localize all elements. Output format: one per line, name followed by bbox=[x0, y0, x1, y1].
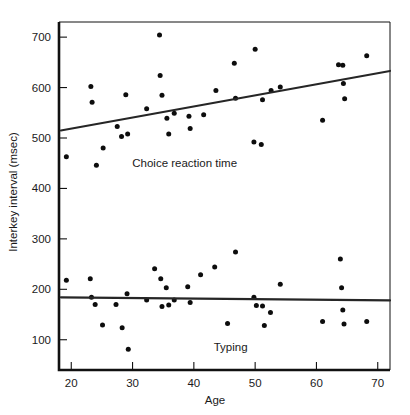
data-point bbox=[336, 62, 341, 67]
trend-line bbox=[61, 297, 390, 300]
data-point bbox=[126, 347, 131, 352]
data-point bbox=[120, 325, 125, 330]
data-point bbox=[253, 47, 258, 52]
data-point bbox=[166, 302, 171, 307]
data-point bbox=[341, 81, 346, 86]
data-point bbox=[213, 88, 218, 93]
data-point bbox=[320, 319, 325, 324]
data-point bbox=[88, 276, 93, 281]
x-tick-label: 30 bbox=[126, 377, 139, 389]
y-axis-title: Interkey interval (msec) bbox=[7, 132, 19, 252]
data-point bbox=[342, 96, 347, 101]
data-point bbox=[152, 266, 157, 271]
data-point bbox=[364, 319, 369, 324]
data-point bbox=[100, 323, 105, 328]
data-point bbox=[144, 106, 149, 111]
scatter-plot-figure: 100200300400500600700203040506070 Age In… bbox=[0, 0, 410, 415]
data-point bbox=[64, 154, 69, 159]
data-point bbox=[340, 307, 345, 312]
y-tick-label: 300 bbox=[32, 233, 51, 245]
data-point bbox=[198, 272, 203, 277]
data-point bbox=[340, 63, 345, 68]
data-point bbox=[186, 114, 191, 119]
y-tick-label: 200 bbox=[32, 283, 51, 295]
data-point bbox=[64, 278, 69, 283]
data-point bbox=[115, 124, 120, 129]
data-point bbox=[185, 284, 190, 289]
series-annotation-label: Choice reaction time bbox=[132, 157, 237, 169]
data-point bbox=[342, 322, 347, 327]
data-point bbox=[158, 276, 163, 281]
axis-frame bbox=[59, 22, 390, 370]
data-point bbox=[123, 92, 128, 97]
data-point bbox=[159, 304, 164, 309]
data-point bbox=[320, 118, 325, 123]
x-tick-label: 40 bbox=[187, 377, 200, 389]
data-point bbox=[125, 291, 130, 296]
data-point bbox=[119, 134, 124, 139]
axis-tick-labels-layer: 100200300400500600700203040506070 bbox=[32, 31, 384, 389]
data-point bbox=[278, 282, 283, 287]
data-point bbox=[166, 131, 171, 136]
tick-marks-layer bbox=[59, 37, 378, 370]
data-point bbox=[101, 146, 106, 151]
plot-canvas: 100200300400500600700203040506070 Age In… bbox=[0, 0, 410, 415]
data-point bbox=[94, 163, 99, 168]
y-tick-label: 700 bbox=[32, 31, 51, 43]
y-tick-label: 500 bbox=[32, 132, 51, 144]
data-point bbox=[88, 84, 93, 89]
x-tick-label: 70 bbox=[371, 377, 384, 389]
data-point bbox=[339, 285, 344, 290]
data-point bbox=[262, 323, 267, 328]
series-annotations-layer: Choice reaction timeTyping bbox=[132, 157, 247, 353]
axis-lines-layer bbox=[59, 22, 390, 370]
y-tick-label: 100 bbox=[32, 334, 51, 346]
data-point bbox=[251, 140, 256, 145]
data-point bbox=[260, 303, 265, 308]
data-point bbox=[172, 111, 177, 116]
y-tick-label: 400 bbox=[32, 182, 51, 194]
data-point bbox=[201, 112, 206, 117]
data-point bbox=[254, 303, 259, 308]
trend-lines-layer bbox=[61, 71, 390, 300]
data-point bbox=[158, 73, 163, 78]
data-point bbox=[260, 97, 265, 102]
y-tick-label: 600 bbox=[32, 82, 51, 94]
data-point bbox=[259, 142, 264, 147]
data-point bbox=[164, 116, 169, 121]
data-point bbox=[232, 61, 237, 66]
data-point bbox=[159, 93, 164, 98]
x-tick-label: 50 bbox=[249, 377, 262, 389]
data-point bbox=[225, 321, 230, 326]
data-point bbox=[212, 265, 217, 270]
data-point bbox=[364, 53, 369, 58]
series-annotation-label: Typing bbox=[214, 341, 248, 353]
data-point bbox=[164, 285, 169, 290]
data-point bbox=[188, 126, 193, 131]
data-point bbox=[268, 310, 273, 315]
data-point bbox=[114, 302, 119, 307]
data-point bbox=[278, 85, 283, 90]
data-points-layer bbox=[64, 33, 369, 352]
data-point bbox=[338, 257, 343, 262]
plot-frame-outline bbox=[59, 22, 390, 370]
data-point bbox=[233, 249, 238, 254]
data-point bbox=[90, 100, 95, 105]
x-axis-title: Age bbox=[205, 394, 225, 406]
x-tick-label: 20 bbox=[65, 377, 78, 389]
data-point bbox=[125, 131, 130, 136]
x-tick-label: 60 bbox=[310, 377, 323, 389]
data-point bbox=[188, 300, 193, 305]
data-point bbox=[157, 33, 162, 38]
trend-line bbox=[61, 71, 390, 131]
data-point bbox=[93, 302, 98, 307]
